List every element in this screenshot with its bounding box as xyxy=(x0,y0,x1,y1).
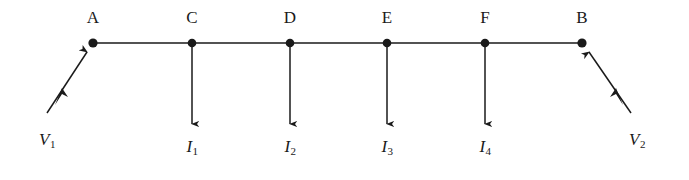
voltage-symbol-V1: V xyxy=(39,130,49,149)
current-subscript-I4: 4 xyxy=(486,145,492,157)
current-label-I1: I1 xyxy=(186,138,197,155)
voltage-symbol-V2: V xyxy=(629,130,639,149)
current-label-I2: I2 xyxy=(284,138,295,155)
voltage-label-V2: V2 xyxy=(629,131,645,148)
current-subscript-I1: 1 xyxy=(193,145,199,157)
current-symbol-I1: I xyxy=(186,137,192,156)
voltage-subscript-V1: 1 xyxy=(50,138,56,150)
current-symbol-I2: I xyxy=(284,137,290,156)
voltage-arrow-V2-mid-chevron xyxy=(610,88,623,105)
voltage-subscript-V2: 2 xyxy=(640,138,646,150)
current-symbol-I4: I xyxy=(479,137,485,156)
current-subscript-I2: 2 xyxy=(291,145,297,157)
node-dot-C xyxy=(188,39,197,48)
node-dot-F xyxy=(481,39,490,48)
current-label-I3: I3 xyxy=(381,138,392,155)
current-subscript-I3: 3 xyxy=(388,145,394,157)
node-label-C: C xyxy=(186,9,198,26)
circuit-diagram: A C D E F B I1 I2 I3 I4 V1 V2 xyxy=(0,0,689,180)
node-label-D: D xyxy=(284,9,296,26)
current-label-I4: I4 xyxy=(479,138,490,155)
node-dot-D xyxy=(286,39,295,48)
node-dot-B xyxy=(577,38,586,47)
node-dot-A xyxy=(88,38,97,47)
voltage-label-V1: V1 xyxy=(39,131,55,148)
node-label-E: E xyxy=(382,9,393,26)
current-branch-lines xyxy=(192,43,485,124)
node-label-F: F xyxy=(480,9,490,26)
node-label-B: B xyxy=(576,9,588,26)
current-symbol-I3: I xyxy=(381,137,387,156)
node-label-A: A xyxy=(87,9,99,26)
node-dot-E xyxy=(383,39,392,48)
voltage-arrow-V2 xyxy=(589,52,631,113)
voltage-arrow-V1 xyxy=(47,52,87,113)
diagram-canvas xyxy=(0,0,689,180)
